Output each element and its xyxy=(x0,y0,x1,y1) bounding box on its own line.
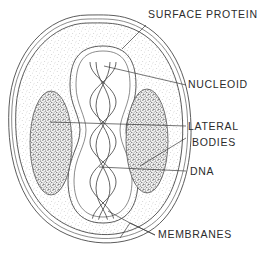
label-nucleoid: NUCLEOID xyxy=(188,78,248,90)
label-surface-protein: SURFACE PROTEIN xyxy=(148,8,258,20)
label-lateral-bodies-line2: BODIES xyxy=(192,136,236,148)
label-dna: DNA xyxy=(190,165,214,177)
lateral-body-right xyxy=(126,89,168,193)
label-lateral-bodies-line1: LATERAL xyxy=(188,120,239,132)
label-membranes: MEMBRANES xyxy=(158,228,232,240)
lateral-body-left xyxy=(30,91,72,195)
virion-diagram: SURFACE PROTEIN NUCLEOID LATERAL BODIES … xyxy=(0,0,262,259)
